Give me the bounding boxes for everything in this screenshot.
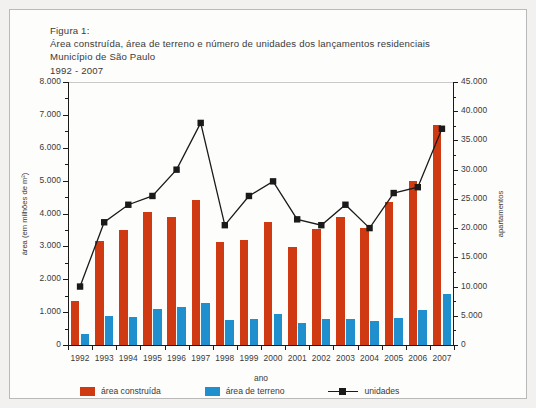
y-left-tick-label: 4.000 <box>40 208 61 218</box>
y-left-tick-label: 5.000 <box>40 175 61 185</box>
unidades-marker <box>318 222 324 228</box>
y-left-tick-label: 3.000 <box>40 240 61 250</box>
legend-label-area-construida: área construída <box>101 386 161 396</box>
unidades-marker <box>222 222 228 228</box>
unidades-marker <box>270 178 276 184</box>
chart-legend: área construída área de terreno unidades <box>80 386 399 396</box>
y-right-tick-label: 15.000 <box>461 251 487 261</box>
legend-label-area-de-terreno: área de terreno <box>226 386 285 396</box>
figure-subtitle: Município de São Paulo <box>50 50 480 63</box>
figure-period: 1992 - 2007 <box>50 64 480 77</box>
figure-frame: Figura 1: Área construída, área de terre… <box>9 9 527 399</box>
y-left-tick-label: 0 <box>56 339 61 349</box>
y-left-tick-label: 2.000 <box>40 273 61 283</box>
unidades-marker <box>77 283 83 289</box>
unidades-marker <box>149 193 155 199</box>
figure-title: Área construída, área de terreno e númer… <box>50 37 480 50</box>
unidades-marker <box>125 202 131 208</box>
legend-swatch-unidades <box>328 387 358 396</box>
x-tick <box>454 345 455 350</box>
unidades-line-series <box>68 82 454 346</box>
y-axis-right-title: apartamentos <box>496 191 505 237</box>
unidades-marker <box>390 190 396 196</box>
unidades-marker <box>246 193 252 199</box>
y-right-tick-label: 10.000 <box>461 281 487 291</box>
y-left-tick-label: 8.000 <box>40 76 61 86</box>
y-right-tick-label: 30.000 <box>461 164 487 174</box>
unidades-marker <box>294 216 300 222</box>
y-right-tick-label: 25.000 <box>461 193 487 203</box>
legend-item-area-construida: área construída <box>80 386 161 396</box>
unidades-marker <box>415 184 421 190</box>
x-tick-label: 2007 <box>422 353 462 363</box>
y-right-tick-label: 40.000 <box>461 105 487 115</box>
legend-label-unidades: unidades <box>364 386 399 396</box>
unidades-marker <box>197 120 203 126</box>
unidades-marker <box>342 202 348 208</box>
legend-swatch-area-de-terreno <box>205 387 220 396</box>
unidades-marker <box>173 166 179 172</box>
y-right-tick-label: 35.000 <box>461 134 487 144</box>
unidades-marker <box>101 219 107 225</box>
figure-title-block: Figura 1: Área construída, área de terre… <box>50 24 480 77</box>
y-axis-left-title: área (em milhões de m²) <box>20 173 29 256</box>
y-left-tick-label: 7.000 <box>40 109 61 119</box>
y-right-tick-label: 20.000 <box>461 222 487 232</box>
legend-item-area-de-terreno: área de terreno <box>205 386 285 396</box>
y-left-tick-label: 6.000 <box>40 142 61 152</box>
y-right-tick-label: 5.000 <box>461 310 482 320</box>
legend-swatch-area-construida <box>80 387 95 396</box>
y-left-tick-label: 1.000 <box>40 306 61 316</box>
unidades-marker <box>366 225 372 231</box>
y-right-tick-label: 45.000 <box>461 76 487 86</box>
figure-label: Figura 1: <box>50 24 480 37</box>
legend-item-unidades: unidades <box>328 386 399 396</box>
chart-plot-area: 01.0002.0003.0004.0005.0006.0007.0008.00… <box>68 82 454 346</box>
x-axis-title: ano <box>68 373 454 383</box>
unidades-marker <box>439 126 445 132</box>
y-right-tick-label: 0 <box>461 339 466 349</box>
